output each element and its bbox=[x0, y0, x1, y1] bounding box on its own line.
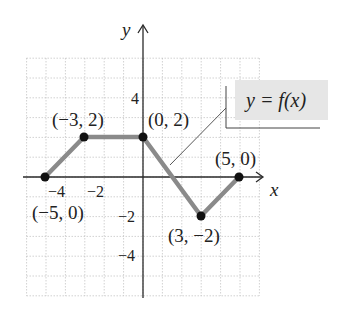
x-tick-label: −4 bbox=[48, 183, 65, 200]
point-label: (−3, 2) bbox=[52, 109, 104, 131]
point-label: (0, 2) bbox=[148, 109, 189, 131]
y-tick-label: 4 bbox=[131, 90, 139, 107]
function-label: y = f(x) bbox=[244, 89, 306, 112]
data-point bbox=[235, 173, 244, 182]
y-tick-label: −2 bbox=[118, 208, 135, 225]
function-graph: x y −4 −2 4 −2 −4 (−5, 0) (−3, 2) (0, 2)… bbox=[0, 0, 343, 322]
data-point bbox=[41, 173, 50, 182]
data-point bbox=[80, 133, 89, 142]
point-label: (5, 0) bbox=[215, 148, 256, 170]
data-point bbox=[197, 212, 206, 221]
point-label: (−5, 0) bbox=[32, 202, 84, 224]
y-axis-label: y bbox=[120, 19, 131, 40]
x-tick-label: −2 bbox=[87, 183, 104, 200]
point-label: (3, −2) bbox=[168, 225, 220, 247]
data-point bbox=[139, 133, 148, 142]
y-tick-label: −4 bbox=[118, 247, 135, 264]
x-axis-label: x bbox=[269, 179, 279, 200]
